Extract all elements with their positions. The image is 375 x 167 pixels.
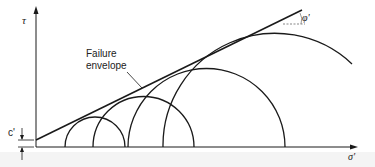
cohesion-intercept-marker [18,128,34,160]
sigma-axis-label: σ' [348,151,356,162]
sigma-axis [36,145,358,150]
intercept-arrow-up-icon [20,147,24,152]
envelope-label-line1: Failure [86,48,117,59]
intercept-arrow-down-icon [20,135,24,140]
mohr-circle-diagram: τ σ' Failure envelope φ' c' [0,0,375,167]
cohesion-label: c' [8,127,15,138]
mohr-circle-3 [128,69,285,147]
tau-axis-label: τ [22,14,27,26]
envelope-label-line2: envelope [86,60,127,71]
tau-axis-arrow-icon [34,6,39,14]
tau-axis [34,6,39,147]
envelope-leader-line [127,72,142,88]
failure-envelope-line [36,10,302,140]
phi-angle-label: φ' [302,12,311,23]
sigma-axis-arrow-icon [350,145,358,150]
